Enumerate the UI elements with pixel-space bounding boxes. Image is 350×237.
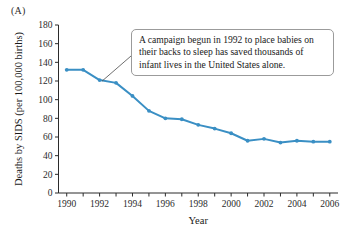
y-tick-label: 20 xyxy=(43,170,53,180)
callout-text: A campaign begun in 1992 to place babies… xyxy=(139,34,314,70)
x-axis-tick-labels: 199019921994199619982000200220042006 xyxy=(57,199,339,209)
y-tick-label: 180 xyxy=(38,20,53,30)
y-tick-label: 140 xyxy=(38,58,53,68)
data-series-sids xyxy=(65,68,332,145)
x-axis-ticks xyxy=(67,193,330,197)
data-point-marker xyxy=(311,140,315,144)
x-tick-label: 1998 xyxy=(189,199,208,209)
data-point-marker xyxy=(65,68,69,72)
x-tick-label: 2006 xyxy=(320,199,339,209)
y-tick-label: 0 xyxy=(48,188,53,198)
data-point-marker xyxy=(163,116,167,120)
data-point-marker xyxy=(213,127,217,131)
callout-leader-line xyxy=(102,56,131,81)
x-tick-label: 1992 xyxy=(90,199,109,209)
x-tick-label: 1990 xyxy=(57,199,76,209)
callout-box: A campaign begun in 1992 to place babies… xyxy=(131,29,334,76)
chart-figure: (A) 020406080100120140160180 19901992199… xyxy=(0,0,350,237)
data-point-marker xyxy=(196,123,200,127)
y-tick-label: 40 xyxy=(43,151,53,161)
data-point-marker xyxy=(295,139,299,143)
data-point-marker xyxy=(229,131,233,135)
data-point-marker xyxy=(328,140,332,144)
y-tick-label: 160 xyxy=(38,39,53,49)
y-axis-tick-labels: 020406080100120140160180 xyxy=(38,20,53,198)
data-point-marker xyxy=(81,68,85,72)
data-point-marker xyxy=(246,139,250,143)
y-axis-title: Deaths by SIDS (per 100,000 births) xyxy=(13,32,25,186)
y-tick-label: 100 xyxy=(38,95,53,105)
x-tick-label: 2002 xyxy=(255,199,274,209)
data-point-marker xyxy=(279,141,283,145)
data-point-marker xyxy=(98,78,102,82)
y-tick-label: 60 xyxy=(43,132,53,142)
y-tick-label: 120 xyxy=(38,76,53,86)
x-axis-title: Year xyxy=(189,215,209,226)
x-tick-label: 2000 xyxy=(222,199,241,209)
y-tick-label: 80 xyxy=(43,114,53,124)
data-point-marker xyxy=(262,137,266,141)
data-point-marker xyxy=(180,117,184,121)
data-point-marker xyxy=(147,109,151,113)
y-axis-ticks xyxy=(55,25,59,193)
data-point-marker xyxy=(114,81,118,85)
data-point-marker xyxy=(131,94,135,98)
x-tick-label: 1996 xyxy=(156,199,175,209)
x-tick-label: 2004 xyxy=(287,199,306,209)
x-tick-label: 1994 xyxy=(123,199,142,209)
